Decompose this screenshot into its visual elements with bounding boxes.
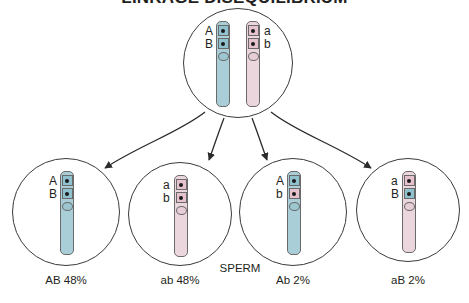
allele-dot <box>407 179 411 183</box>
locus-B <box>218 38 229 49</box>
gamete-caption-ab-parental: AB 48% <box>12 274 120 286</box>
gamete-chromosome: a B <box>402 171 416 253</box>
sperm-label: SPERM <box>190 262 290 274</box>
centromere <box>248 52 259 61</box>
diagram-canvas: LINKAGE DISEQUILIBRIUM A B <box>0 0 469 303</box>
arrow-to-gamete-1 <box>105 112 205 168</box>
parent-chromosome-pink: a b <box>246 21 260 107</box>
allele-label-B: B <box>205 38 213 50</box>
locus-A <box>62 175 73 186</box>
allele-dot <box>292 179 296 183</box>
allele-label-b: b <box>264 38 271 50</box>
allele-dot <box>65 179 69 183</box>
gamete-cell-Ab-recombinant: A b <box>239 158 347 266</box>
parent-chromosome-teal: A B <box>216 21 230 107</box>
allele-label-b: b <box>276 188 283 200</box>
allele-dot <box>179 183 183 187</box>
allele-dot <box>292 192 296 196</box>
allele-label-a: a <box>163 179 170 191</box>
allele-dot <box>221 29 225 33</box>
allele-label-a: a <box>391 175 398 187</box>
gamete-caption-aB-recombinant: aB 2% <box>356 274 460 286</box>
diagram-title: LINKAGE DISEQUILIBRIUM <box>0 0 469 8</box>
centromere <box>218 52 229 61</box>
gamete-cell-aB-recombinant: a B <box>356 158 460 262</box>
allele-label-A: A <box>276 175 284 187</box>
locus-a <box>248 25 259 36</box>
locus-B <box>404 188 415 199</box>
arrow-to-gamete-2 <box>209 118 224 160</box>
gamete-caption-ab-lower-parental: ab 48% <box>128 274 232 286</box>
centromere <box>289 202 300 211</box>
allele-label-b: b <box>163 192 170 204</box>
arrow-to-gamete-3 <box>252 118 267 160</box>
centromere <box>62 202 73 211</box>
locus-b <box>289 188 300 199</box>
centromere <box>176 206 187 215</box>
allele-dot <box>407 192 411 196</box>
allele-dot <box>251 42 255 46</box>
gamete-chromosome: A B <box>60 171 74 255</box>
allele-label-B: B <box>391 188 399 200</box>
allele-label-B: B <box>49 188 57 200</box>
allele-dot <box>179 196 183 200</box>
parent-germ-cell: A B a b <box>183 8 293 118</box>
allele-label-a: a <box>264 25 271 37</box>
allele-dot <box>221 42 225 46</box>
centromere <box>404 202 415 211</box>
allele-dot <box>251 29 255 33</box>
gamete-cell-ab-parental: A B <box>12 158 120 266</box>
gamete-cell-ab-lower-parental: a b <box>128 162 232 266</box>
allele-label-A: A <box>49 175 57 187</box>
locus-a <box>176 179 187 190</box>
gamete-chromosome: a b <box>174 175 188 257</box>
allele-label-A: A <box>205 25 213 37</box>
locus-A <box>289 175 300 186</box>
locus-a <box>404 175 415 186</box>
locus-b <box>176 192 187 203</box>
allele-dot <box>65 192 69 196</box>
locus-b <box>248 38 259 49</box>
locus-A <box>218 25 229 36</box>
gamete-chromosome: A b <box>287 171 301 255</box>
gamete-caption-Ab-recombinant: Ab 2% <box>239 274 347 286</box>
locus-B <box>62 188 73 199</box>
